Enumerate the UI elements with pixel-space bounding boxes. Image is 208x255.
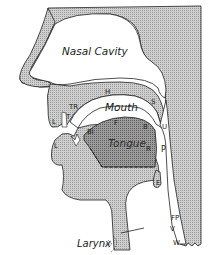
label-front: F — [114, 120, 118, 127]
label-food-passage: FP — [171, 215, 179, 222]
label-larynx: Larynx — [77, 239, 111, 249]
label-tongue: Tongue — [108, 138, 146, 149]
vocal-tract-diagram: Nasal Cavity Mouth Tongue Larynx L L T T… — [0, 0, 208, 255]
label-blade: Bl — [87, 129, 94, 136]
label-soft-palate: S — [151, 99, 155, 106]
label-teeth: T — [66, 114, 70, 121]
label-root: R — [146, 146, 151, 153]
label-teeth-ridge: TR — [69, 104, 78, 111]
label-pharynx: P — [161, 146, 166, 154]
label-mouth: Mouth — [105, 102, 138, 113]
label-nasal-cavity: Nasal Cavity — [62, 46, 128, 57]
label-vocal-cords: V — [170, 226, 175, 233]
label-windpipe: W — [173, 240, 180, 247]
label-hard-palate: H — [105, 89, 110, 96]
label-back: B — [143, 124, 148, 131]
label-upper-lip: L — [52, 119, 56, 126]
label-uvula: U — [162, 124, 167, 131]
label-epiglottis: E — [156, 180, 160, 187]
label-lower-lip: L — [54, 143, 58, 150]
